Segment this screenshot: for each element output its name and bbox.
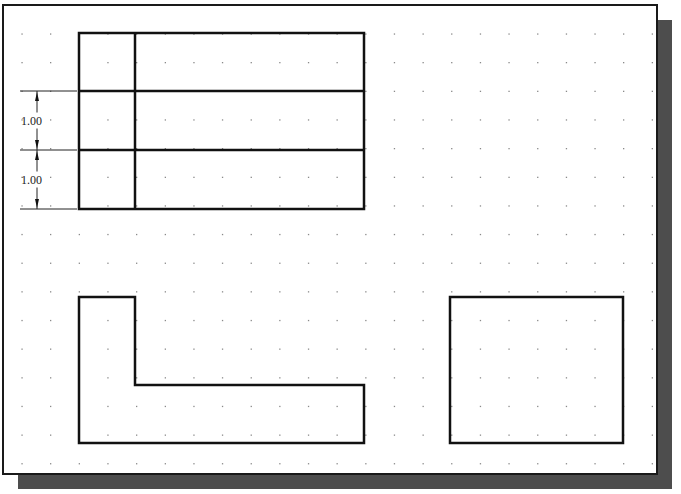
grid-dot	[652, 463, 653, 464]
grid-dot	[480, 320, 481, 321]
grid-dot	[423, 119, 424, 120]
grid-dot	[251, 119, 252, 120]
grid-dot	[566, 205, 567, 206]
grid-dot	[251, 435, 252, 436]
grid-dot	[566, 62, 567, 63]
grid-dot	[279, 406, 280, 407]
grid-dot	[423, 205, 424, 206]
grid-dot	[423, 291, 424, 292]
grid-dot	[365, 234, 366, 235]
grid-dot	[21, 377, 22, 378]
grid-dot	[451, 435, 452, 436]
grid-dot	[193, 291, 194, 292]
grid-dot	[251, 320, 252, 321]
grid-dot	[423, 320, 424, 321]
grid-dot	[193, 435, 194, 436]
grid-dot	[279, 377, 280, 378]
grid-dot	[222, 349, 223, 350]
grid-dot	[165, 349, 166, 350]
grid-dot	[365, 33, 366, 34]
grid-dot	[21, 435, 22, 436]
grid-dot	[136, 463, 137, 464]
grid-dot	[136, 234, 137, 235]
grid-dot	[652, 349, 653, 350]
grid-dot	[566, 119, 567, 120]
grid-dot	[566, 91, 567, 92]
grid-dot	[508, 33, 509, 34]
grid-dot	[508, 406, 509, 407]
drawing-canvas: 1.001.00	[0, 0, 681, 494]
grid-dot	[537, 263, 538, 264]
grid-dot	[537, 177, 538, 178]
grid-dot	[566, 435, 567, 436]
grid-dot	[451, 177, 452, 178]
grid-dot	[451, 463, 452, 464]
grid-dot	[193, 234, 194, 235]
grid-dot	[337, 435, 338, 436]
grid-dot	[537, 119, 538, 120]
grid-dot	[508, 205, 509, 206]
grid-dot	[594, 377, 595, 378]
grid-dot	[451, 91, 452, 92]
grid-dot	[394, 349, 395, 350]
grid-dot	[623, 148, 624, 149]
grid-dot	[251, 62, 252, 63]
grid-dot	[652, 263, 653, 264]
grid-dot	[50, 148, 51, 149]
grid-dot	[165, 205, 166, 206]
grid-dot	[566, 291, 567, 292]
grid-dot	[623, 33, 624, 34]
grid-dot	[79, 463, 80, 464]
grid-dot	[451, 234, 452, 235]
grid-dot	[537, 291, 538, 292]
grid-dot	[594, 435, 595, 436]
grid-dot	[566, 148, 567, 149]
grid-dot	[537, 62, 538, 63]
dimension-label: 1.00	[21, 173, 42, 187]
grid-dot	[337, 62, 338, 63]
grid-dot	[365, 291, 366, 292]
grid-dot	[251, 377, 252, 378]
grid-dot	[508, 62, 509, 63]
grid-dot	[394, 177, 395, 178]
grid-dot	[451, 205, 452, 206]
grid-dot	[594, 119, 595, 120]
grid-dot	[365, 320, 366, 321]
grid-dot	[652, 33, 653, 34]
grid-dot	[279, 119, 280, 120]
grid-dot	[480, 205, 481, 206]
grid-dot	[50, 377, 51, 378]
grid-dot	[394, 33, 395, 34]
grid-dot	[308, 291, 309, 292]
grid-dot	[279, 463, 280, 464]
grid-dot	[566, 349, 567, 350]
grid-dot	[21, 291, 22, 292]
grid-dot	[107, 234, 108, 235]
grid-dot	[21, 349, 22, 350]
grid-dot	[50, 291, 51, 292]
grid-dot	[451, 349, 452, 350]
grid-dot	[107, 349, 108, 350]
grid-dot	[423, 62, 424, 63]
grid-dot	[79, 263, 80, 264]
grid-dot	[365, 177, 366, 178]
grid-dot	[165, 406, 166, 407]
grid-dot	[566, 263, 567, 264]
dimension-label: 1.00	[21, 114, 42, 128]
grid-dot	[508, 291, 509, 292]
grid-dot	[394, 406, 395, 407]
grid-dot	[21, 320, 22, 321]
grid-dot	[652, 291, 653, 292]
grid-dot	[537, 463, 538, 464]
grid-dot	[251, 234, 252, 235]
grid-dot	[480, 406, 481, 407]
grid-dot	[508, 234, 509, 235]
grid-dot	[222, 62, 223, 63]
grid-dot	[107, 119, 108, 120]
grid-dot	[394, 91, 395, 92]
grid-dot	[394, 119, 395, 120]
grid-dot	[508, 148, 509, 149]
grid-dot	[50, 320, 51, 321]
grid-dot	[279, 349, 280, 350]
grid-dot	[594, 463, 595, 464]
